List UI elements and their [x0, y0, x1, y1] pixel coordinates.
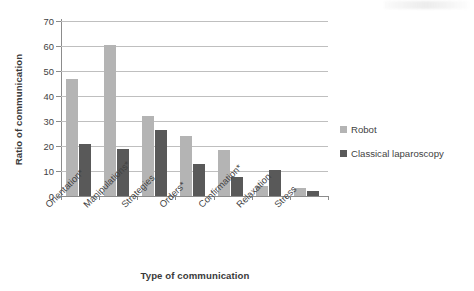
legend-swatch-icon: [340, 150, 347, 157]
bar-classical: [269, 170, 281, 196]
y-axis-tick: [56, 146, 61, 147]
bar-chart: Ratio of communication 010203040506070 O…: [0, 0, 474, 291]
y-axis-tick-labels: 010203040506070: [29, 0, 54, 291]
legend-item: Classical laparoscopy: [340, 148, 444, 159]
y-axis-title: Ratio of communication: [13, 30, 24, 190]
chart-legend: RobotClassical laparoscopy: [340, 124, 444, 172]
y-axis-tick-label: 30: [32, 116, 54, 127]
legend-item: Robot: [340, 124, 444, 135]
y-axis-tick: [56, 171, 61, 172]
y-axis-tick: [56, 196, 61, 197]
y-axis-tick-label: 50: [32, 66, 54, 77]
gridline: [61, 46, 328, 47]
y-axis-tick-label: 40: [32, 91, 54, 102]
y-axis-tick-label: 60: [32, 41, 54, 52]
legend-label: Robot: [351, 124, 377, 135]
y-axis-tick: [56, 121, 61, 122]
y-axis-tick: [56, 21, 61, 22]
scan-artifact: [384, 1, 468, 9]
gridline: [61, 71, 328, 72]
y-axis-tick: [56, 71, 61, 72]
gridline: [61, 121, 328, 122]
plot-area: [61, 21, 328, 196]
gridline: [61, 21, 328, 22]
gridline: [61, 146, 328, 147]
y-axis-tick: [56, 96, 61, 97]
y-axis-tick: [56, 46, 61, 47]
y-axis-tick-label: 20: [32, 141, 54, 152]
x-axis-title: Type of communication: [60, 270, 330, 281]
legend-label: Classical laparoscopy: [351, 148, 444, 159]
x-axis-tick: [328, 196, 329, 200]
gridline: [61, 96, 328, 97]
y-axis-tick-label: 70: [32, 16, 54, 27]
bar-classical: [307, 191, 319, 197]
bar-classical: [193, 164, 205, 197]
bar-classical: [155, 130, 167, 196]
legend-swatch-icon: [340, 126, 347, 133]
y-axis-tick-label: 10: [32, 166, 54, 177]
